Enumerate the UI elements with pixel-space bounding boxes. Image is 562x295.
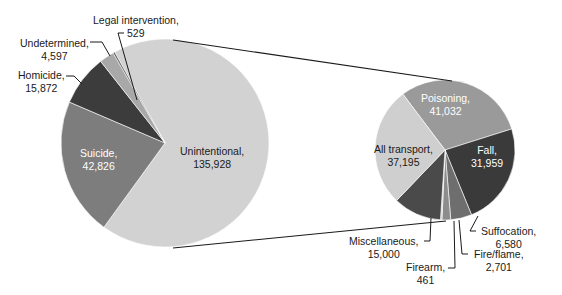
label-value: 41,032: [421, 105, 470, 118]
label-name: Undetermined,: [20, 37, 89, 50]
leader-homicide: [66, 76, 82, 84]
label-fall: Fall, 31,959: [471, 144, 503, 169]
label-name: Unintentional,: [180, 145, 244, 158]
label-poisoning: Poisoning, 41,032: [421, 92, 470, 117]
label-value: 42,826: [80, 160, 117, 173]
label-value: 2,701: [474, 261, 524, 274]
label-fire-flame: Fire/flame, 2,701: [474, 248, 524, 273]
label-name: Suicide,: [80, 147, 117, 160]
label-name: Firearm,: [406, 261, 445, 274]
label-name: Fall,: [471, 144, 503, 157]
leader-misc: [424, 218, 431, 241]
label-name: Suffocation,: [481, 225, 536, 238]
label-undetermined: Undetermined, 4,597: [20, 37, 89, 62]
label-value: 37,195: [374, 156, 433, 169]
label-value: 529: [93, 27, 179, 40]
leader-firearm: [448, 221, 455, 268]
leader-fire: [459, 220, 468, 254]
label-unintentional: Unintentional, 135,928: [180, 145, 244, 170]
label-name: All transport,: [374, 143, 433, 156]
label-firearm: Firearm, 461: [406, 261, 445, 286]
label-value: 135,928: [180, 158, 244, 171]
label-name: Legal intervention,: [93, 14, 179, 27]
label-name: Poisoning,: [421, 92, 470, 105]
label-suicide: Suicide, 42,826: [80, 147, 117, 172]
label-name: Homicide,: [18, 69, 65, 82]
label-homicide: Homicide, 15,872: [18, 69, 65, 94]
label-value: 15,000: [349, 248, 418, 261]
label-value: 4,597: [20, 50, 89, 63]
label-value: 31,959: [471, 157, 503, 170]
intent-pie: [61, 39, 269, 247]
label-name: Fire/flame,: [474, 248, 524, 261]
label-miscellaneous: Miscellaneous, 15,000: [349, 235, 418, 260]
label-value: 461: [406, 274, 445, 287]
label-name: Miscellaneous,: [349, 235, 418, 248]
label-suffocation: Suffocation, 6,580: [481, 225, 536, 250]
leader-suffocation: [470, 216, 478, 231]
label-all-transport: All transport, 37,195: [374, 143, 433, 168]
label-value: 15,872: [18, 82, 65, 95]
label-legal-intervention: Legal intervention, 529: [93, 14, 179, 39]
leader-undetermined: [90, 42, 110, 56]
